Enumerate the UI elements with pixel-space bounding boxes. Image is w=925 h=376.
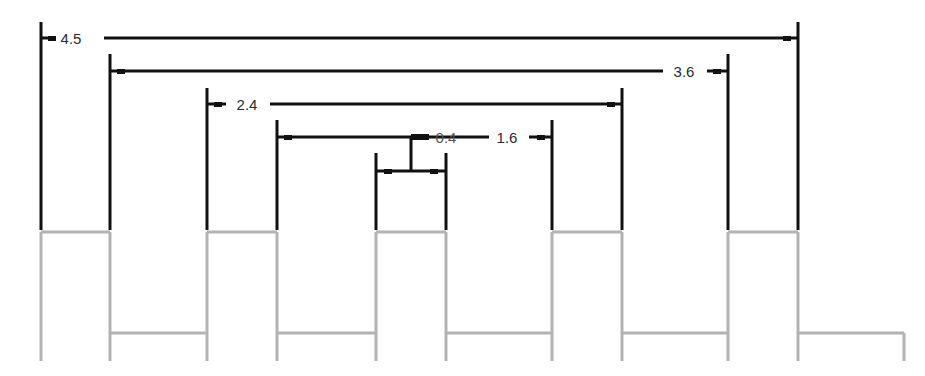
arrowhead: [537, 135, 545, 140]
arrowhead: [48, 36, 56, 41]
arrowhead: [783, 36, 791, 41]
arrowhead: [384, 169, 392, 174]
dimension-lines: [41, 22, 798, 230]
arrowhead: [607, 102, 615, 107]
leader-tab: [411, 134, 429, 140]
arrowhead: [117, 69, 125, 74]
arrowhead: [284, 135, 292, 140]
dimension-label-2-4: 2.4: [237, 96, 258, 113]
dimension-label-3-6: 3.6: [674, 63, 695, 80]
dimension-label-4-5: 4.5: [61, 30, 82, 47]
dimension-labels: 4.5 3.6 2.4 1.6 0.4: [61, 30, 695, 146]
timing-diagram: 4.5 3.6 2.4 1.6 0.4: [0, 0, 925, 376]
dimension-label-0-4: 0.4: [436, 129, 457, 146]
pulse-waveform: [41, 232, 904, 361]
arrowhead: [430, 169, 438, 174]
arrowhead: [713, 69, 721, 74]
dimension-label-1-6: 1.6: [497, 129, 518, 146]
arrowhead: [214, 102, 222, 107]
